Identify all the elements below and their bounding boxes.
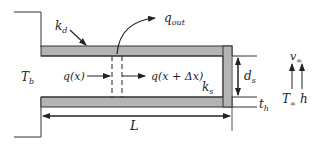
tinf-label: T∞ — [282, 92, 296, 108]
th-label: th — [259, 97, 269, 113]
tb-label: Tb — [21, 70, 34, 86]
kd-arrow — [70, 30, 86, 45]
vinf-label: v∞ — [290, 50, 302, 65]
length-label: L — [129, 118, 139, 133]
h-label: h — [300, 92, 308, 106]
bottom-plate — [41, 97, 232, 107]
kd-label: kd — [55, 19, 67, 35]
qxdx-label: q(x + Δx) — [151, 70, 203, 83]
ds-label: ds — [244, 69, 256, 85]
ks-label: ks — [202, 80, 213, 96]
control-volume — [112, 56, 122, 97]
heat-transfer-diagram: kd qout Tb q(x) q(x + Δx) ks ds th L v∞ … — [0, 0, 323, 149]
qx-label: q(x) — [63, 70, 85, 83]
qout-label: qout — [164, 11, 186, 27]
top-plate — [41, 46, 232, 56]
